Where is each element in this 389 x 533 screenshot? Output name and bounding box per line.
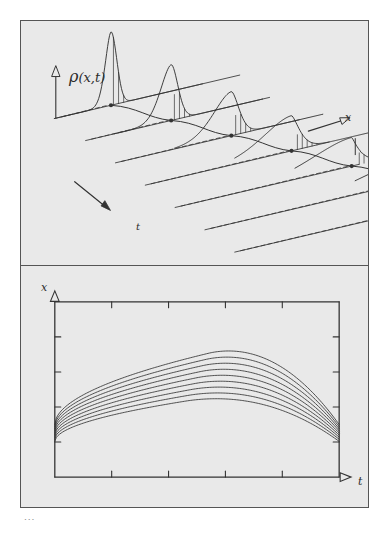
x-direction-arrow: [308, 118, 350, 131]
characteristic-curve: [55, 399, 339, 442]
rho-axis-arrowhead: [52, 66, 60, 77]
profile-curve: [175, 92, 323, 148]
t-axis-label-top: t: [136, 222, 140, 232]
profile-curve: [355, 157, 368, 181]
bottom-panel: [20, 266, 369, 508]
profile-baseline: [235, 209, 368, 252]
x-axis-label-top: x: [345, 112, 351, 123]
profile-baseline: [205, 187, 368, 230]
shock-trajectory-curve: [111, 105, 368, 196]
foot-dashed-link: [62, 105, 108, 117]
characteristics-group: [50, 291, 351, 482]
characteristic-curve: [55, 381, 339, 435]
x-axis-label-bottom: x: [41, 282, 47, 293]
t-direction-arrow: [75, 182, 111, 211]
density-profile: [145, 116, 368, 185]
t-axis-arrowhead: [340, 473, 351, 482]
figure-root: ρ(x,t) x t x t ...: [0, 0, 389, 533]
foot-dashed-link: [241, 196, 368, 250]
x-axis-arrowhead: [50, 291, 59, 301]
waterfall-group: [52, 32, 368, 252]
density-waterfall-plot: [21, 21, 368, 265]
rho-axis-label: ρ(x,t): [69, 69, 105, 85]
density-profile: [235, 175, 368, 252]
foot-dashed-link: [151, 151, 288, 184]
foot-dashed-link: [211, 181, 368, 228]
characteristics-plot: [21, 266, 368, 507]
density-profile: [175, 138, 368, 208]
t-axis-label-bottom: t: [358, 476, 362, 487]
top-panel: ρ(x,t): [20, 20, 369, 266]
caption-remnant: ...: [24, 519, 365, 531]
characteristic-curve: [55, 375, 339, 433]
